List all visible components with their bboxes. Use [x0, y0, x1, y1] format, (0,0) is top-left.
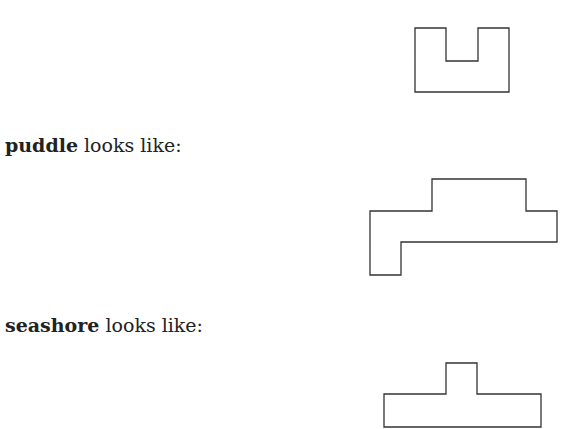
shapes-canvas [0, 0, 575, 429]
notched-rectangle-shape [415, 28, 509, 92]
puddle-shape [370, 179, 557, 275]
seashore-shape [384, 363, 541, 427]
